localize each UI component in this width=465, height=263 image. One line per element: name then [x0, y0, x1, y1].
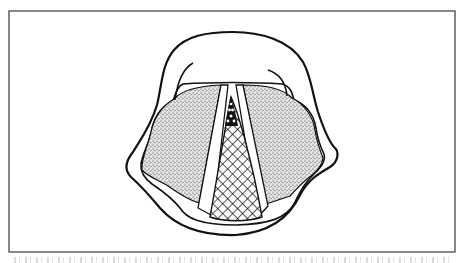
- figure-caption: [0, 256, 465, 263]
- caption-text-cropped: [14, 257, 454, 263]
- larynx-diagram: [0, 0, 465, 263]
